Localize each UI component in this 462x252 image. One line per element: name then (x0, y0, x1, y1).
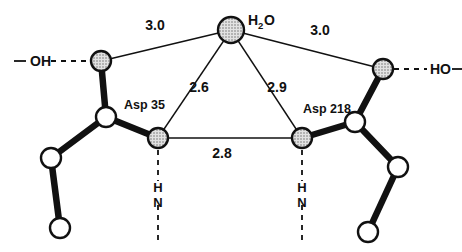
atom-asp35-cb (41, 148, 61, 168)
distance-label-asp35o1-water: 3.0 (145, 17, 165, 33)
hydroxyl-label-right: HO (430, 61, 451, 77)
hydrogen-bond-lines (101, 30, 383, 138)
atom-asp218-ca (358, 222, 378, 242)
water-label-o: O (264, 12, 275, 28)
diagram-canvas: 3.0 3.0 2.6 2.9 2.8 H 2 O Asp 35 Asp 218… (0, 0, 462, 252)
atom-asp35-o1 (91, 51, 111, 71)
hbond-asp35o1-water (101, 30, 231, 61)
water-label-subscript: 2 (258, 20, 263, 31)
residue-label-asp35: Asp 35 (124, 98, 165, 112)
distance-label-water-asp218o1: 3.0 (310, 22, 330, 38)
residue-label-asp218: Asp 218 (303, 102, 351, 116)
distance-label-water-asp218o2: 2.9 (267, 79, 287, 95)
water-label: H 2 O (248, 12, 275, 31)
amide-n-label-right: N (297, 195, 306, 210)
amide-n-label-left: N (153, 195, 162, 210)
chemical-structure-figure: 3.0 3.0 2.6 2.9 2.8 H 2 O Asp 35 Asp 218… (0, 0, 462, 252)
amide-h-label-right: H (297, 180, 306, 195)
atom-asp218-o2 (292, 128, 312, 148)
atom-asp35-carboxyl-c (96, 107, 116, 127)
dashed-contact-lines (14, 61, 462, 243)
water-label-h: H (248, 12, 258, 28)
hydroxyl-label-left: OH (30, 53, 51, 69)
atom-asp35-o2 (148, 128, 168, 148)
distance-label-water-asp35o2: 2.6 (189, 79, 209, 95)
atom-water-oxygen (218, 17, 244, 43)
amide-h-label-left: H (153, 180, 162, 195)
distance-label-asp35o2-asp218o2: 2.8 (212, 145, 232, 161)
hbond-water-asp218o1 (231, 30, 383, 69)
atom-asp218-cb (388, 157, 408, 177)
atom-asp35-ca (50, 218, 70, 238)
atom-asp218-o1 (373, 59, 393, 79)
